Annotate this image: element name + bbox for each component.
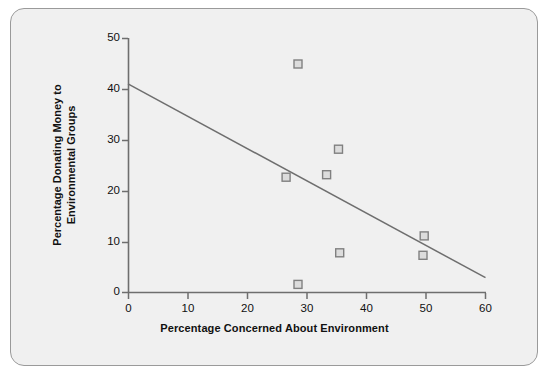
data-point <box>419 251 427 259</box>
y-axis-title-line2: Environmental Groups <box>65 106 77 225</box>
x-tick-label-40: 40 <box>347 302 387 314</box>
data-point <box>335 145 343 153</box>
y-tick-label-20: 20 <box>86 184 120 196</box>
x-tick-label-50: 50 <box>406 302 446 314</box>
y-tick-label-50: 50 <box>86 31 120 43</box>
y-axis-title-line1: Percentage Donating Money to <box>51 84 63 245</box>
y-tick-label-10: 10 <box>86 235 120 247</box>
x-tick-label-30: 30 <box>287 302 327 314</box>
y-axis-title-wrapper: Percentage Donating Money to Environment… <box>46 40 82 290</box>
x-tick-label-60: 60 <box>466 302 506 314</box>
data-point <box>294 60 302 68</box>
regression-line <box>128 84 486 278</box>
x-tick-label-20: 20 <box>228 302 268 314</box>
data-point <box>323 171 331 179</box>
data-point <box>282 173 290 181</box>
data-point <box>294 280 302 288</box>
data-point-markers <box>282 60 428 288</box>
x-tick-label-0: 0 <box>109 302 149 314</box>
x-axis-ticks <box>129 293 486 299</box>
scatter-plot-canvas <box>0 0 549 376</box>
y-tick-label-30: 30 <box>86 133 120 145</box>
x-axis-title: Percentage Concerned About Environment <box>0 322 549 334</box>
x-tick-label-10: 10 <box>168 302 208 314</box>
y-tick-label-0: 0 <box>86 285 120 297</box>
figure-root: 50 40 30 20 10 0 0 10 20 30 40 50 60 Per… <box>0 0 549 376</box>
y-tick-label-40: 40 <box>86 82 120 94</box>
y-axis-title: Percentage Donating Money to Environment… <box>50 84 78 245</box>
data-point <box>420 232 428 240</box>
y-axis-ticks <box>122 39 128 293</box>
data-point <box>336 249 344 257</box>
